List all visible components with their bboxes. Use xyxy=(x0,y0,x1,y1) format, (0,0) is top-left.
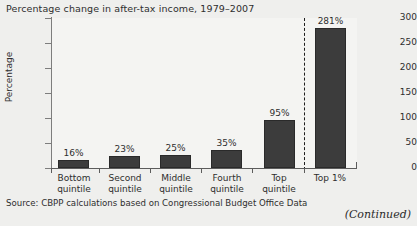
plot-area xyxy=(51,18,357,168)
category-label-line1: Middle xyxy=(150,173,202,184)
bar-top-1-percent[interactable] xyxy=(315,28,346,168)
bar-value-middle-quintile: 25% xyxy=(155,143,196,153)
category-label-line1: Second xyxy=(99,173,151,184)
y-tick-50 xyxy=(45,143,51,144)
y-tick-150 xyxy=(45,93,51,94)
category-label-top-quintile: Top quintile xyxy=(253,173,305,194)
y-tick-label-300: 300 xyxy=(375,12,417,22)
category-label-line1: Top xyxy=(253,173,305,184)
bar-value-top-quintile: 95% xyxy=(259,108,300,118)
source-note: Source: CBPP calculations based on Congr… xyxy=(6,198,307,208)
bar-bottom-quintile[interactable] xyxy=(58,160,89,168)
bar-second-quintile[interactable] xyxy=(109,156,140,168)
y-axis-title: Percentage xyxy=(4,37,14,117)
figure-panel: Percentage change in after-tax income, 1… xyxy=(0,0,417,226)
bar-middle-quintile[interactable] xyxy=(160,155,191,168)
bar-value-bottom-quintile: 16% xyxy=(53,148,94,158)
category-label-top-1-percent: Top 1% xyxy=(304,173,356,184)
category-label-line1: Fourth xyxy=(201,173,253,184)
y-tick-label-200: 200 xyxy=(375,62,417,72)
bar-fourth-quintile[interactable] xyxy=(211,150,242,168)
y-tick-250 xyxy=(45,43,51,44)
y-tick-100 xyxy=(45,118,51,119)
category-label-line2: quintile xyxy=(48,184,100,195)
y-tick-label-250: 250 xyxy=(375,37,417,47)
y-tick-300 xyxy=(45,18,51,19)
category-label-line1: Top 1% xyxy=(304,173,356,184)
y-tick-label-0: 0 xyxy=(375,162,417,172)
bar-value-top-1-percent: 281% xyxy=(310,16,351,26)
continued-note: (Continued) xyxy=(345,208,411,221)
x-axis-line xyxy=(51,168,357,169)
bar-top-quintile[interactable] xyxy=(264,120,295,168)
x-axis-end-tick xyxy=(356,162,357,169)
y-tick-label-150: 150 xyxy=(375,87,417,97)
divider-dashed-line xyxy=(304,18,305,170)
category-label-line2: quintile xyxy=(253,184,305,195)
category-label-line2: quintile xyxy=(150,184,202,195)
y-axis-line xyxy=(51,17,52,169)
category-label-second-quintile: Second quintile xyxy=(99,173,151,194)
bar-value-fourth-quintile: 35% xyxy=(206,138,247,148)
bar-value-second-quintile: 23% xyxy=(104,144,145,154)
category-label-fourth-quintile: Fourth quintile xyxy=(201,173,253,194)
y-tick-label-100: 100 xyxy=(375,112,417,122)
category-label-middle-quintile: Middle quintile xyxy=(150,173,202,194)
y-tick-200 xyxy=(45,68,51,69)
chart-title: Percentage change in after-tax income, 1… xyxy=(6,3,254,14)
category-label-line1: Bottom xyxy=(48,173,100,184)
y-tick-label-50: 50 xyxy=(375,137,417,147)
category-label-line2: quintile xyxy=(99,184,151,195)
category-label-line2: quintile xyxy=(201,184,253,195)
category-label-bottom-quintile: Bottom quintile xyxy=(48,173,100,194)
